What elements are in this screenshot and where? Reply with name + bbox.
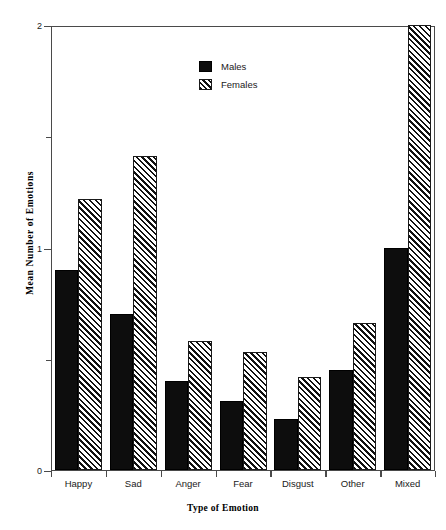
- x-tick-1: [161, 471, 162, 477]
- bar-sad-females: [133, 156, 157, 470]
- x-tick-origin: [51, 471, 52, 477]
- bar-mixed-males: [384, 248, 408, 471]
- y-tick-label-1: 1: [26, 244, 42, 254]
- x-category-label-happy: Happy: [51, 478, 106, 489]
- bar-other-females: [353, 323, 377, 470]
- y-axis-title: Mean Number of Emotions: [25, 143, 35, 323]
- bar-chart-figure: Mean Number of Emotions 2 1 0 HappySadAn…: [0, 0, 446, 530]
- legend-swatch-females-icon: [199, 79, 212, 90]
- x-category-label-disgust: Disgust: [270, 478, 325, 489]
- x-category-label-mixed: Mixed: [380, 478, 435, 489]
- bar-anger-males: [165, 381, 189, 470]
- x-tick-4: [325, 471, 326, 477]
- x-tick-0: [106, 471, 107, 477]
- legend-label-females: Females: [221, 79, 257, 90]
- bar-disgust-females: [298, 377, 322, 470]
- x-tick-2: [216, 471, 217, 477]
- bar-fear-males: [220, 401, 244, 470]
- legend-swatch-males-icon: [199, 61, 212, 72]
- bar-disgust-males: [274, 419, 298, 470]
- legend: Males Females: [199, 57, 257, 93]
- bar-sad-males: [110, 314, 134, 470]
- x-tick-6: [435, 471, 436, 477]
- bar-fear-females: [243, 352, 267, 470]
- legend-item-males: Males: [199, 57, 257, 75]
- x-category-label-fear: Fear: [216, 478, 271, 489]
- bar-happy-males: [55, 270, 79, 470]
- bar-other-males: [329, 370, 353, 470]
- bar-mixed-females: [408, 25, 432, 470]
- y-tick-label-0: 0: [26, 466, 42, 476]
- x-tick-3: [270, 471, 271, 477]
- x-category-label-sad: Sad: [106, 478, 161, 489]
- bar-happy-females: [78, 199, 102, 470]
- y-tick-label-2: 2: [26, 21, 42, 31]
- x-category-label-other: Other: [325, 478, 380, 489]
- legend-label-males: Males: [221, 61, 246, 72]
- x-tick-5: [380, 471, 381, 477]
- x-axis-title: Type of Emotion: [0, 503, 446, 513]
- bar-anger-females: [188, 341, 212, 470]
- legend-item-females: Females: [199, 75, 257, 93]
- x-category-label-anger: Anger: [161, 478, 216, 489]
